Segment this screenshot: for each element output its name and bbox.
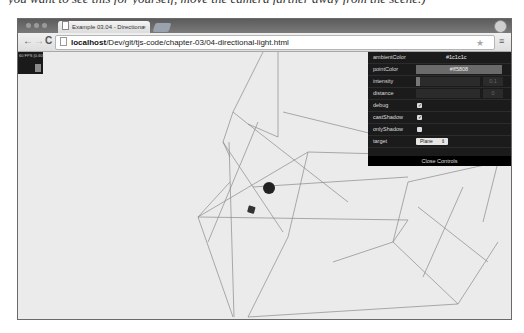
gui-label: distance xyxy=(373,88,394,99)
minimize-window-button[interactable] xyxy=(34,23,39,28)
gui-label: pointColor xyxy=(373,64,398,75)
target-select[interactable]: Plane⇕ xyxy=(416,138,448,145)
gui-row-intensity: intensity 0.1 xyxy=(368,76,511,88)
point-color-input[interactable]: #ff5808 xyxy=(416,65,502,74)
new-tab-button[interactable] xyxy=(153,23,172,32)
stats-fps-panel[interactable]: 60 FPS (0-60) xyxy=(18,52,43,74)
gui-row-ambientColor: ambientColor #1c1c1c xyxy=(368,52,511,64)
cast-shadow-checkbox[interactable]: ✓ xyxy=(417,115,422,120)
gui-row-castShadow: castShadow ✓ xyxy=(368,112,511,124)
reload-button[interactable]: C xyxy=(45,35,52,46)
fps-graph xyxy=(35,64,41,72)
only-shadow-checkbox[interactable] xyxy=(417,127,422,132)
slider-fill xyxy=(416,77,420,86)
profile-icon[interactable] xyxy=(494,20,507,33)
gui-row-target: target Plane⇕ xyxy=(368,136,511,148)
close-controls-button[interactable]: Close Controls xyxy=(368,156,511,166)
browser-window: Example 03.04 - Directiona × ← → C local… xyxy=(17,18,512,320)
close-window-button[interactable] xyxy=(26,23,31,28)
intensity-slider[interactable] xyxy=(416,77,480,86)
address-bar[interactable]: localhost/Dev/git/tjs-code/chapter-03/04… xyxy=(55,35,495,50)
book-caption-text: you want to see this for yourself, move … xyxy=(8,0,524,5)
tab-close-icon[interactable]: × xyxy=(142,21,146,33)
fps-text: 60 FPS (0-60) xyxy=(18,52,43,59)
gui-row-distance: distance 0 xyxy=(368,88,511,100)
menu-icon[interactable]: ≡ xyxy=(499,36,504,46)
gui-row-debug: debug ✓ xyxy=(368,100,511,112)
forward-button[interactable]: → xyxy=(34,35,44,46)
point-light-sphere xyxy=(263,182,275,194)
url-path: /Dev/git/tjs-code/chapter-03/04-directio… xyxy=(106,38,289,47)
distance-input[interactable]: 0 xyxy=(483,89,503,98)
debug-checkbox[interactable]: ✓ xyxy=(417,103,422,108)
gui-label: intensity xyxy=(373,76,393,87)
gui-label: debug xyxy=(373,100,388,111)
back-button[interactable]: ← xyxy=(23,35,33,46)
gui-row-pointColor: pointColor #ff5808 xyxy=(368,64,511,76)
page-icon xyxy=(60,37,67,46)
tab-strip: Example 03.04 - Directiona × xyxy=(18,19,511,33)
url-host: localhost xyxy=(71,38,106,47)
page-icon xyxy=(62,21,69,30)
distance-slider[interactable] xyxy=(416,89,480,98)
browser-toolbar: ← → C localhost/Dev/git/tjs-code/chapter… xyxy=(18,33,511,52)
gui-row-onlyShadow: onlyShadow xyxy=(368,124,511,136)
intensity-input[interactable]: 0.1 xyxy=(483,77,503,86)
gui-label: ambientColor xyxy=(373,52,406,63)
select-arrow-icon: ⇕ xyxy=(441,138,445,145)
gui-label: target xyxy=(373,136,387,147)
ambient-color-value[interactable]: #1c1c1c xyxy=(446,52,467,63)
bookmark-star-icon[interactable]: ★ xyxy=(476,37,484,50)
zoom-window-button[interactable] xyxy=(42,23,47,28)
target-select-value: Plane xyxy=(420,138,433,144)
tab-example[interactable]: Example 03.04 - Directiona × xyxy=(58,21,150,33)
webgl-canvas[interactable]: 60 FPS (0-60) ambientColor #1c1c1c point… xyxy=(18,52,511,319)
tab-title: Example 03.04 - Directiona xyxy=(72,24,144,30)
dat-gui-panel: ambientColor #1c1c1c pointColor #ff5808 … xyxy=(368,52,511,166)
gui-label: castShadow xyxy=(373,112,403,123)
gui-label: onlyShadow xyxy=(373,124,403,135)
small-cube xyxy=(247,205,256,214)
